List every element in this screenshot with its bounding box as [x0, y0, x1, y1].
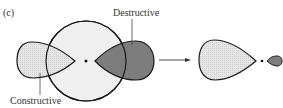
hybrid-nucleus-dot: [261, 60, 264, 63]
hybrid-large-lobe: [199, 40, 256, 80]
orbital-hybridization-diagram: [0, 0, 283, 108]
nucleus-dot: [85, 60, 88, 63]
hybrid-small-lobe: [267, 56, 282, 66]
arrow-icon: [159, 58, 191, 62]
